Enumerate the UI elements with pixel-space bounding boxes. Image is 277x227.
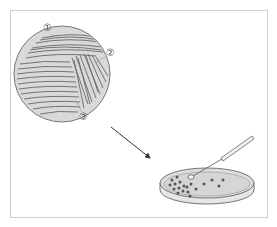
label-3: ③ [79, 111, 88, 122]
process-arrow [111, 127, 150, 158]
petri-dish [160, 168, 254, 204]
streak-plate [14, 26, 110, 122]
plate-circle [14, 26, 110, 122]
diagram-canvas: ① ② ③ [0, 0, 277, 227]
label-1: ① [43, 22, 52, 33]
label-2: ② [106, 47, 115, 58]
